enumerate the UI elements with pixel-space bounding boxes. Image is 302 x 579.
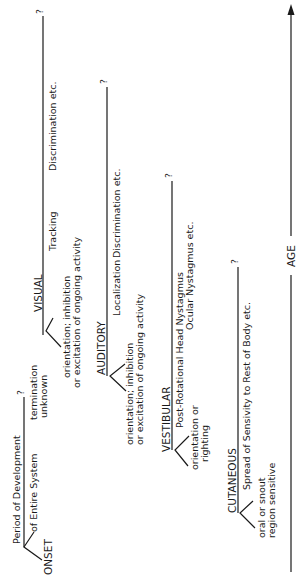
auditory-name: AUDITORY bbox=[95, 321, 107, 375]
auditory-end-mark: ? bbox=[99, 79, 109, 84]
legend: Period of Development of Entire System O… bbox=[11, 365, 54, 575]
auditory-onset-line2: or excitation of ongoing activity bbox=[134, 294, 145, 445]
legend-end-mark: ? bbox=[16, 390, 26, 395]
cutaneous-end-mark: ? bbox=[230, 259, 240, 264]
cutaneous-onset-line2: region sensitive bbox=[266, 463, 277, 538]
legend-top-label: Period of Development bbox=[11, 435, 22, 544]
visual-onset-line2: or excitation of ongoing activity bbox=[71, 237, 82, 388]
vestibular-name: VESTIBULAR bbox=[160, 387, 172, 452]
visual-stage-2: Discrimination etc. bbox=[47, 82, 58, 171]
vestibular-onset-check-icon bbox=[175, 436, 189, 466]
age-axis-arrow-icon bbox=[288, 4, 295, 15]
vestibular-stage-2: Ocular Nystagmus etc. bbox=[184, 222, 195, 330]
age-axis-label: AGE bbox=[285, 245, 297, 267]
system-vestibular: ? VESTIBULAR orientation or righting Pos… bbox=[160, 173, 210, 470]
cutaneous-stage-1: Spread of Sensivity to Rest of Body etc. bbox=[241, 302, 252, 490]
visual-name: VISUAL bbox=[32, 274, 44, 312]
system-visual: ? VISUAL orientation; inhibition or exci… bbox=[32, 9, 82, 388]
age-axis: AGE bbox=[285, 4, 297, 572]
legend-onset-check-icon bbox=[24, 532, 42, 560]
visual-onset-check-icon bbox=[46, 318, 61, 347]
vestibular-onset-line2: righting bbox=[199, 425, 210, 462]
vestibular-end-mark: ? bbox=[164, 173, 174, 178]
visual-end-mark: ? bbox=[35, 9, 45, 14]
cutaneous-name: CUTANEOUS bbox=[226, 448, 238, 513]
auditory-stage-2: Discrimination etc. bbox=[111, 169, 122, 258]
auditory-stage-1: Localization bbox=[111, 260, 122, 316]
legend-onset-label: ONSET bbox=[42, 539, 54, 575]
cutaneous-onset-check-icon bbox=[240, 501, 255, 528]
sensory-development-diagram: AGE Period of Development of Entire Syst… bbox=[0, 0, 302, 579]
legend-termination-line2: unknown bbox=[38, 375, 49, 418]
system-auditory: ? AUDITORY orientation; inhibition or ex… bbox=[95, 79, 145, 445]
legend-bottom-label: of Entire System bbox=[28, 453, 39, 532]
system-cutaneous: ? CUTANEOUS oral or snout region sensiti… bbox=[226, 259, 277, 538]
visual-stage-1: Tracking bbox=[47, 211, 58, 252]
